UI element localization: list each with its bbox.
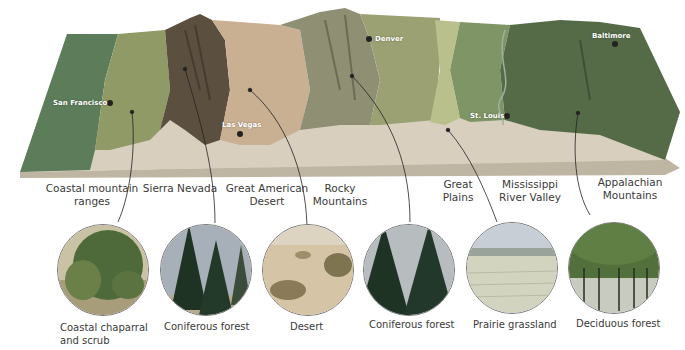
- city-dot-denver: [366, 36, 372, 42]
- biome-label-prairie-grassland: Prairie grassland: [473, 318, 557, 331]
- city-label-las-vegas: Las Vegas: [222, 121, 261, 129]
- desert-photo-icon: [262, 224, 354, 316]
- conifer-photo-icon: [160, 224, 252, 316]
- scrub-photo-icon: [57, 224, 149, 316]
- biome-label-coastal-chaparral: Coastal chaparral and scrub: [60, 321, 148, 347]
- biome-label-coniferous-forest-2: Coniferous forest: [369, 318, 454, 331]
- region-label-rocky-mountains: Rocky Mountains: [310, 182, 370, 208]
- city-label-baltimore: Baltimore: [592, 32, 631, 40]
- region-label-great-american-desert: Great American Desert: [222, 182, 312, 208]
- city-dot-san-francisco: [107, 100, 113, 106]
- region-label-sierra-nevada: Sierra Nevada: [140, 182, 220, 195]
- conifer-photo-icon: [363, 224, 455, 316]
- city-label-san-francisco: San Francisco: [53, 99, 107, 107]
- biome-label-coniferous-forest-1: Coniferous forest: [164, 320, 249, 333]
- city-dot-baltimore: [612, 41, 618, 47]
- biome-label-deciduous-forest: Deciduous forest: [576, 317, 660, 330]
- grassland-photo-icon: [466, 222, 558, 314]
- deciduous-photo-icon: [568, 222, 660, 314]
- biome-diagram: San Francisco Las Vegas Denver St. Louis…: [0, 0, 685, 350]
- region-label-coastal-mountains: Coastal mountain ranges: [42, 182, 142, 208]
- region-label-mississippi-valley: Mississippi River Valley: [490, 178, 570, 204]
- city-dot-st-louis: [504, 113, 510, 119]
- region-label-appalachian: Appalachian Mountains: [590, 176, 670, 202]
- city-label-denver: Denver: [375, 35, 403, 43]
- city-label-st-louis: St. Louis: [470, 112, 504, 120]
- city-dot-las-vegas: [237, 131, 243, 137]
- region-label-great-plains: Great Plains: [433, 178, 483, 204]
- biome-label-desert: Desert: [290, 320, 323, 333]
